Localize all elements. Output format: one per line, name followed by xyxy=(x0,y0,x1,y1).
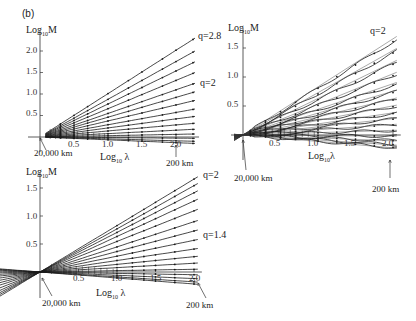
panel-a-q-top-label: q=2.8 xyxy=(198,30,221,41)
panel-b-x-tick: 1.0 xyxy=(307,138,318,148)
panel-c-km-right-label: 200 km xyxy=(186,300,213,310)
panel-a-x-tick: 1.5 xyxy=(136,139,147,149)
panel-a-km-right-label: 200 km xyxy=(166,158,193,168)
panel-c-y-tick: 0.5 xyxy=(26,239,37,249)
panel-c-x-tick: 1.0 xyxy=(111,273,122,283)
panel-b-y-tick: 1.0 xyxy=(227,70,238,80)
panel-a-y-axis-title: Log10M xyxy=(26,24,57,37)
panel-b-y-axis-title: Log10M xyxy=(228,22,259,35)
panel-b-x-tick: 1.5 xyxy=(344,138,355,148)
panel-c-x-axis-title: Log10 λ xyxy=(96,287,125,300)
panel-c-km-left-label: 20,000 km xyxy=(42,298,81,308)
panel-b-y-tick: 1.5 xyxy=(227,41,238,51)
panel-c-x-tick: 2.0 xyxy=(189,273,200,283)
panel-b-x-tick: 2.0 xyxy=(382,138,393,148)
panel-a-y-tick: 2.0 xyxy=(26,45,37,55)
panel-b-y-tick: 0.5 xyxy=(227,99,238,109)
panel-b-x-tick: 0.5 xyxy=(269,138,280,148)
panel-b-km-right-label: 200 km xyxy=(372,184,399,194)
panel-a-y-tick: 0.5 xyxy=(26,108,37,118)
panel-b-q-top-label: q=2 xyxy=(370,25,386,36)
panel-c-q-top-label: q=2 xyxy=(203,169,219,180)
panel-c-x-tick: 0.5 xyxy=(73,273,84,283)
panel-a-y-tick: 1.0 xyxy=(26,87,37,97)
panel-a-x-tick: 1.0 xyxy=(102,139,113,149)
panel-label: (b) xyxy=(22,8,34,19)
panel-c-x-tick: 1.5 xyxy=(150,273,161,283)
panel-b-km-left-label: 20,000 km xyxy=(234,173,273,183)
panel-a-x-tick: 2.0 xyxy=(170,139,181,149)
panel-c-y-tick: 1.5 xyxy=(26,183,37,193)
panel-a-y-tick: 1.5 xyxy=(26,66,37,76)
panel-a-q-mid-label: q=2 xyxy=(200,77,216,88)
panel-a-km-left-label: 20,000 km xyxy=(34,148,73,158)
figure-canvas xyxy=(0,0,416,321)
panel-a-x-axis-title: Log10 λ xyxy=(100,151,129,164)
panel-c-y-tick: 1.0 xyxy=(26,211,37,221)
panel-c-y-axis-title: Log10M xyxy=(26,166,57,179)
panel-a-plot xyxy=(28,30,199,157)
panel-b-x-axis-title: Log10λ xyxy=(308,150,335,163)
panel-c-q-mid-label: q=1.4 xyxy=(203,229,226,240)
